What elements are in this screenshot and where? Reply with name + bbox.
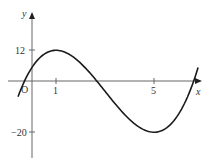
y-axis-label: y — [21, 8, 27, 19]
x-tick-label-1: 1 — [53, 85, 58, 96]
x-axis-label: x — [195, 86, 201, 97]
cubic-graph: y x O 1 5 12 −20 — [0, 0, 204, 166]
y-tick-label-12: 12 — [15, 45, 25, 56]
x-axis-arrow-icon — [195, 78, 202, 84]
x-tick-label-5: 5 — [151, 85, 156, 96]
y-axis-arrow-icon — [29, 12, 35, 19]
y-tick-label-neg20: −20 — [11, 127, 27, 138]
cubic-curve — [18, 50, 198, 132]
